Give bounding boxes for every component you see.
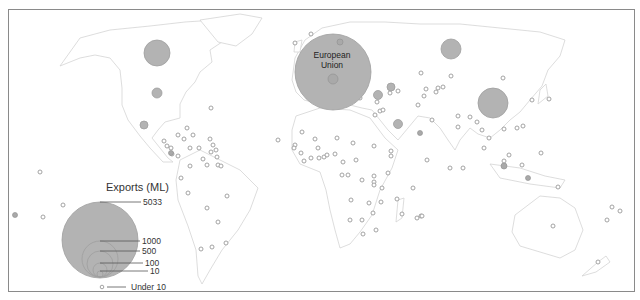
land-madagascar	[396, 198, 404, 222]
land-new-zealand	[582, 256, 610, 276]
world-map: European Union Exports (ML) 5033 1000 50…	[0, 0, 640, 300]
legend-circle-5033	[62, 202, 138, 278]
bubble-russia	[441, 39, 461, 59]
bubble-saudi-arabia	[394, 120, 403, 129]
bubble-european-union	[295, 34, 371, 110]
legend-label-10: 10	[150, 266, 160, 276]
legend-circle-under-10	[100, 285, 104, 289]
bubble-canada	[144, 40, 170, 66]
legend-label-under-10: Under 10	[131, 282, 166, 292]
land-australia	[512, 196, 583, 258]
bubble-united-states	[152, 88, 162, 98]
eu-label-line2: Union	[321, 60, 343, 70]
legend-label-5033: 5033	[143, 197, 162, 207]
land-south-america	[176, 150, 258, 284]
bubble-mexico	[140, 121, 148, 129]
bubble-turkey	[374, 91, 383, 100]
legend: Exports (ML) 5033 1000 500 100 10 Under …	[62, 181, 169, 292]
land-africa	[292, 108, 398, 248]
bubble-china	[478, 88, 508, 118]
eu-label-line1: European	[314, 50, 351, 60]
legend-title: Exports (ML)	[106, 181, 169, 193]
bubble-iran	[387, 83, 395, 91]
legend-label-500: 500	[142, 246, 156, 256]
legend-label-1000: 1000	[142, 236, 161, 246]
